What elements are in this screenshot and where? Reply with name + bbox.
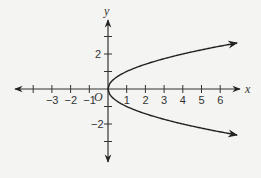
- x-tick-label: −3: [46, 94, 59, 106]
- upper-branch-curve: [108, 43, 237, 89]
- x-tick-label: −2: [65, 94, 78, 106]
- y-tick-label: 2: [95, 48, 101, 60]
- x-tick-label: 3: [161, 94, 167, 106]
- axes: [15, 20, 240, 162]
- y-tick-label: −2: [91, 118, 104, 130]
- x-axis-label: x: [244, 82, 251, 96]
- x-tick-label: 1: [124, 94, 130, 106]
- x-tick-label: 4: [180, 94, 186, 106]
- x-tick-label: 2: [142, 94, 148, 106]
- x-tick-label: 5: [199, 94, 205, 106]
- y-axis-label: y: [103, 4, 110, 18]
- origin-label: O: [94, 90, 103, 104]
- x-tick-label: 6: [217, 94, 223, 106]
- parabola-chart: −3−2−11234562−2 x y O: [0, 0, 261, 178]
